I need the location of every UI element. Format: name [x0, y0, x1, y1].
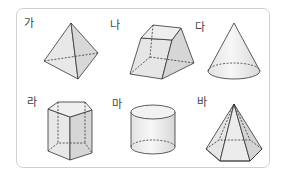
cylinder-shape	[131, 105, 175, 154]
hexagonal-pyramid-shape	[206, 104, 262, 161]
solids-figure	[0, 0, 283, 172]
square-frustum-shape	[130, 25, 194, 79]
triangular-pyramid-shape	[44, 23, 98, 79]
pentagonal-prism-shape	[48, 102, 92, 160]
cone-shape	[208, 23, 260, 79]
